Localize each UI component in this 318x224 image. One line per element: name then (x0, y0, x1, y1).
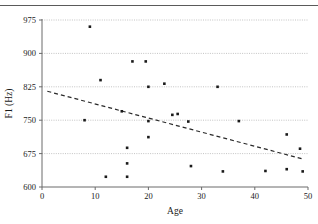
gridlines-group (42, 20, 308, 154)
y-tick-label-975: 975 (23, 15, 36, 25)
x-axis-title: Age (167, 206, 183, 216)
data-point (190, 165, 193, 168)
trendline-group (47, 91, 302, 159)
data-point (171, 114, 174, 117)
trendline (47, 91, 302, 159)
y-axis-title: F1 (Hz) (4, 89, 15, 119)
data-point (285, 168, 288, 171)
data-point (216, 86, 219, 89)
data-point (301, 170, 304, 173)
data-point (163, 82, 166, 85)
data-point (126, 175, 129, 178)
data-point (264, 170, 267, 173)
x-tick-label-20: 20 (144, 191, 153, 201)
data-point (89, 25, 92, 28)
data-point (126, 147, 129, 150)
data-point (147, 120, 150, 123)
data-point (222, 170, 225, 173)
figure-container: 01020304050 600675750825900975 Age F1 (H… (0, 0, 318, 224)
y-tick-label-825: 825 (23, 82, 36, 92)
x-tick-label-30: 30 (197, 191, 206, 201)
data-point (105, 175, 108, 178)
data-point (299, 147, 302, 150)
data-point (176, 113, 179, 116)
x-tick-label-40: 40 (251, 191, 260, 201)
y-tick-label-900: 900 (23, 48, 36, 58)
data-points-group (83, 25, 304, 178)
data-point (83, 119, 86, 122)
data-point (147, 86, 150, 89)
data-point (121, 110, 124, 113)
data-point (147, 136, 150, 139)
data-point (131, 60, 134, 63)
data-point (238, 120, 241, 123)
x-tick-label-0: 0 (40, 191, 44, 201)
axes-group (42, 19, 308, 187)
y-tick-labels-group: 600675750825900975 (23, 15, 36, 192)
data-point (187, 120, 190, 123)
y-tick-label-750: 750 (23, 115, 36, 125)
x-tick-labels-group: 01020304050 (40, 191, 312, 201)
y-tick-label-600: 600 (23, 182, 36, 192)
data-point (126, 162, 129, 165)
data-point (99, 79, 102, 82)
data-point (144, 60, 147, 63)
data-point (285, 133, 288, 136)
x-tick-label-10: 10 (91, 191, 100, 201)
y-tick-label-675: 675 (23, 149, 36, 159)
x-tick-label-50: 50 (304, 191, 313, 201)
plot-svg: 01020304050 600675750825900975 Age F1 (H… (0, 0, 318, 224)
scatter-chart: 01020304050 600675750825900975 Age F1 (H… (0, 0, 318, 224)
